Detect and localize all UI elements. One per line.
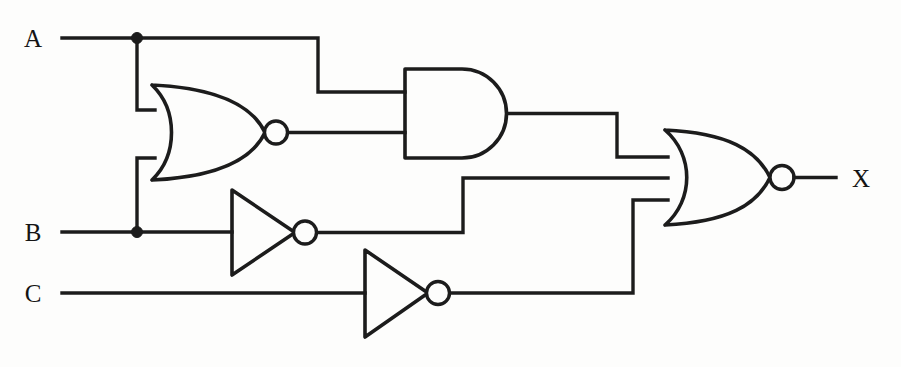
inverter-2-output-bubble [427,282,450,305]
nor-gate-1-body [152,85,265,180]
wire-b-branch-nor1 [137,158,155,232]
wire-inv2-out [450,200,668,293]
junction-dot-b [132,227,143,238]
inverter-1-body [232,190,295,275]
wire-and1-out [507,114,668,158]
nor-gate-2[interactable] [665,130,794,225]
inverter-1-output-bubble [294,221,317,244]
input-label-b: B [25,219,42,246]
nor-gate-1-output-bubble [265,121,288,144]
wire-a-branch-nor1 [137,38,155,110]
input-label-a: A [24,25,42,52]
wire-inv1-out [317,178,668,233]
circuit-schematic-svg: A B C X [0,0,901,367]
and-gate-1-body [405,69,507,158]
junction-dot-a [132,33,143,44]
logic-circuit-diagram: A B C X [0,0,901,367]
nor-gate-2-body [665,130,770,225]
wire-a-trunk [62,38,405,92]
input-label-c: C [25,280,42,307]
inverter-1[interactable] [232,190,317,275]
nor-gate-2-output-bubble [770,166,794,190]
output-label-x: X [852,165,870,192]
and-gate-1[interactable] [405,69,507,158]
nor-gate-1[interactable] [152,85,288,180]
inverter-2[interactable] [365,250,450,337]
inverter-2-body [365,250,428,337]
